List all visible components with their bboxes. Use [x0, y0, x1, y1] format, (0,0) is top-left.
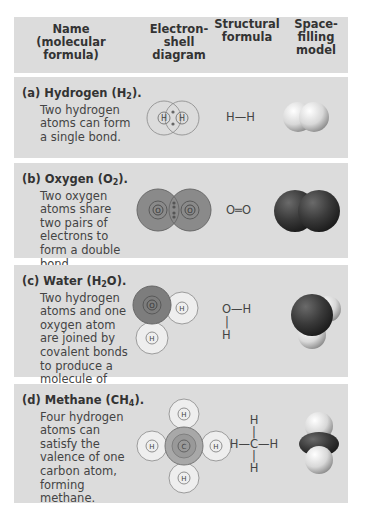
- header-name-column: Name (molecular formula): [26, 23, 116, 62]
- electron-shell-diagram-hydrogen: H H: [142, 99, 206, 137]
- row-water: (c) Water (H2O). Two hydrogen atoms and …: [14, 265, 348, 377]
- row-methane: (d) Methane (CH4). Four hydrogen atoms c…: [14, 384, 348, 503]
- svg-text:O: O: [155, 207, 161, 215]
- structural-bottom: H: [222, 329, 251, 342]
- molecule-title: (b) Oxygen (O2).: [22, 173, 133, 190]
- column-header: Name (molecular formula) Electron- shell…: [14, 17, 348, 73]
- structural-formula-water: O—H | H: [222, 303, 251, 342]
- svg-text:H: H: [181, 411, 186, 419]
- electron-shell-diagram-water: H H O: [130, 281, 220, 361]
- header-text: formula): [26, 49, 116, 62]
- header-shell-column: Electron- shell diagram: [144, 23, 214, 62]
- space-filling-model-hydrogen: [281, 97, 331, 137]
- svg-text:C: C: [182, 443, 187, 451]
- svg-text:H: H: [149, 443, 154, 451]
- svg-text:H: H: [179, 114, 185, 123]
- space-filling-model-methane: [294, 402, 344, 482]
- molecule-description: Two hydrogen atoms can form a single bon…: [23, 104, 133, 145]
- description-hydrogen: (a) Hydrogen (H2). Two hydrogen atoms ca…: [23, 87, 133, 144]
- header-structural-column: Structural formula: [212, 18, 282, 44]
- svg-text:H: H: [149, 335, 154, 343]
- svg-text:O: O: [149, 302, 155, 310]
- row-oxygen: (b) Oxygen (O2). Two oxygen atoms share …: [14, 163, 348, 258]
- molecule-title: (c) Water (H2O).: [22, 275, 133, 292]
- svg-text:O: O: [187, 207, 193, 215]
- description-water: (c) Water (H2O). Two hydrogen atoms and …: [23, 275, 133, 400]
- header-spacefill-column: Space- filling model: [286, 18, 346, 57]
- molecule-description: Four hydrogen atoms can satisfy the vale…: [23, 411, 133, 506]
- space-filling-model-water: [290, 287, 346, 355]
- molecule-title: (a) Hydrogen (H2).: [22, 87, 133, 104]
- molecule-description: Two oxygen atoms share two pairs of elec…: [23, 190, 133, 272]
- description-methane: (d) Methane (CH4). Four hydrogen atoms c…: [23, 394, 133, 506]
- header-text: formula: [212, 31, 282, 44]
- structural-formula-hydrogen: H—H: [226, 110, 255, 124]
- svg-text:H: H: [181, 475, 186, 483]
- electron-shell-diagram-oxygen: O O: [136, 187, 212, 233]
- header-text: model: [286, 44, 346, 57]
- molecule-title: (d) Methane (CH4).: [22, 394, 133, 411]
- description-oxygen: (b) Oxygen (O2). Two oxygen atoms share …: [23, 173, 133, 271]
- structural-formula-oxygen: O═O: [226, 203, 251, 217]
- svg-text:H: H: [179, 305, 184, 313]
- structural-bottom: H: [226, 462, 282, 474]
- structural-formula-methane: H | H—C—H | H: [226, 414, 282, 474]
- space-filling-model-oxygen: [274, 185, 340, 237]
- svg-text:H: H: [213, 443, 218, 451]
- row-hydrogen: (a) Hydrogen (H2). Two hydrogen atoms ca…: [14, 77, 348, 158]
- svg-text:H: H: [161, 114, 167, 123]
- header-text: diagram: [144, 49, 214, 62]
- electron-shell-diagram-methane: H H H H C: [134, 394, 234, 498]
